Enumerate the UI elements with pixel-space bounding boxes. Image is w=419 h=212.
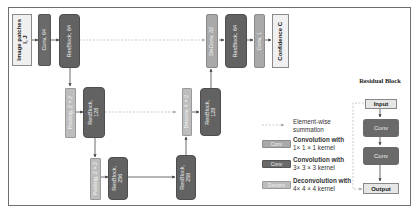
rb-output-box: Output bbox=[363, 183, 399, 194]
resblock-256b-label: ResBlock, 256 bbox=[180, 165, 192, 190]
resblock-256-block: ResBlock, 256 bbox=[108, 157, 128, 200]
rb-conv2-box: Conv bbox=[363, 147, 399, 165]
legend-conv1-icon-label: Conv bbox=[271, 141, 283, 147]
pooling-b-label: Pooling, 2×2 bbox=[93, 162, 99, 196]
deconv-64-block: DeConv, 32 bbox=[206, 14, 218, 68]
resblock-64b-label: ResBlock, 64 bbox=[233, 25, 239, 57]
residual-block-title: Residual Block bbox=[350, 77, 410, 84]
legend-deconv-icon: Deconv bbox=[262, 181, 291, 189]
legend-conv3-line1: Convolution with bbox=[293, 156, 344, 164]
legend-conv1x1: Convolution with 1× 1 × 1 kernel bbox=[293, 136, 344, 152]
legend-conv3x3: Convolution with 3× 3 × 3 kernel bbox=[293, 156, 344, 172]
rb-conv2-label: Conv bbox=[374, 153, 388, 159]
resblock-128b-label: ResBlock, 128 bbox=[205, 100, 217, 125]
legend-conv3-icon-label: Conv bbox=[271, 161, 283, 167]
legend-conv3x3-icon: Conv bbox=[262, 160, 291, 168]
rb-input-box: Input bbox=[365, 99, 397, 109]
deconv-128-block: Deconv, 4×2 bbox=[182, 88, 192, 136]
resblock-256-label: ResBlock, 256 bbox=[112, 166, 124, 191]
resblock-128-decoder: ResBlock, 128 bbox=[200, 88, 221, 136]
legend-summation-line2: summation bbox=[293, 126, 331, 134]
resblock-256-bottleneck: ResBlock, 256 bbox=[176, 155, 196, 200]
legend-deconv-line1: Deconvolution with bbox=[293, 177, 351, 185]
rb-input-label: Input bbox=[374, 101, 389, 107]
rb-conv1-box: Conv bbox=[363, 119, 399, 137]
pooling-block-a: Pooling, 2×2 bbox=[65, 88, 76, 138]
pooling-a-label: Pooling, 2×2 bbox=[68, 96, 74, 130]
legend-conv3-line2: 3× 3 × 3 kernel bbox=[293, 164, 344, 172]
pooling-block-b: Pooling, 2×2 bbox=[90, 158, 101, 200]
resblock-64-encoder: ResBlock, 64 bbox=[59, 14, 80, 68]
resblock-64-label: ResBlock, 64 bbox=[67, 25, 73, 57]
resblock-128-label: ResBlock, 128 bbox=[88, 100, 100, 125]
legend-conv1-line2: 1× 1 × 1 kernel bbox=[293, 144, 344, 152]
confidence-label: Confidence C bbox=[277, 22, 283, 61]
conv-64-block: Conv, 64 bbox=[38, 14, 51, 66]
confidence-output-block: Confidence C bbox=[272, 14, 289, 68]
legend-deconv: Deconvolution with 4× 4 × 4 kernel bbox=[293, 177, 351, 193]
conv-64-label: Conv, 64 bbox=[42, 29, 48, 51]
legend-conv1-line1: Convolution with bbox=[293, 136, 344, 144]
resblock-64-decoder: ResBlock, 64 bbox=[225, 14, 247, 68]
conv-1-block: Conv, 1 bbox=[254, 14, 265, 68]
deconv-128-label: Deconv, 4×2 bbox=[184, 95, 190, 128]
resblock-128-encoder: ResBlock, 128 bbox=[83, 87, 105, 138]
legend-summation: Element-wise summation bbox=[293, 118, 331, 134]
input-block-label: Image patches I, J bbox=[16, 19, 29, 61]
deconv-64-label: DeConv, 32 bbox=[209, 27, 215, 56]
legend-deconv-icon-label: Deconv bbox=[268, 182, 285, 188]
rb-conv1-label: Conv bbox=[374, 125, 388, 131]
legend-conv1x1-icon: Conv bbox=[262, 140, 291, 148]
conv-1-label: Conv, 1 bbox=[257, 32, 263, 51]
rb-output-label: Output bbox=[371, 186, 391, 192]
legend-summation-line1: Element-wise bbox=[293, 118, 331, 126]
image-patches-input-block: Image patches I, J bbox=[12, 14, 32, 66]
legend-deconv-line2: 4× 4 × 4 kernel bbox=[293, 185, 351, 193]
